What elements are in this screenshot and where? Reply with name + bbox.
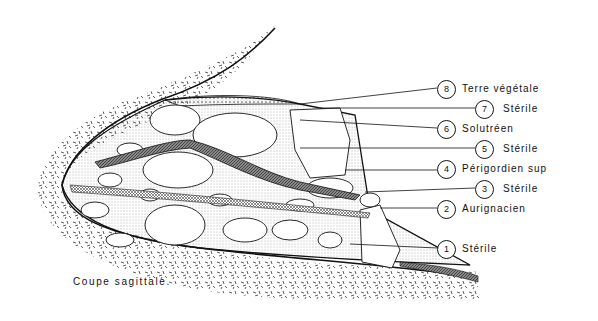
layer-5-label: Stérile — [503, 143, 538, 155]
layer-6-label: Solutréen — [462, 123, 514, 135]
stratigraphic-section-drawing — [0, 0, 598, 321]
layer-2-number: 2 — [437, 200, 456, 219]
layer-6-number: 6 — [437, 120, 456, 139]
layer-3-number: 3 — [475, 180, 494, 199]
layer-1-label: Stérile — [462, 243, 497, 255]
figure-caption: Coupe sagittale. — [73, 276, 171, 287]
layer-7-label: Stérile — [503, 103, 538, 115]
layer-4-number: 4 — [437, 160, 456, 179]
layer-8-label: Terre végétale — [462, 83, 539, 95]
layer-7-number: 7 — [475, 100, 494, 119]
layer-5-number: 5 — [475, 140, 494, 159]
layer-8 — [165, 95, 300, 106]
layer-4-label: Périgordien sup — [462, 163, 547, 175]
layer-2-label: Aurignacien — [462, 203, 526, 215]
layer-3-label: Stérile — [503, 183, 538, 195]
layer-8-number: 8 — [437, 80, 456, 99]
layer-1-number: 1 — [437, 240, 456, 259]
